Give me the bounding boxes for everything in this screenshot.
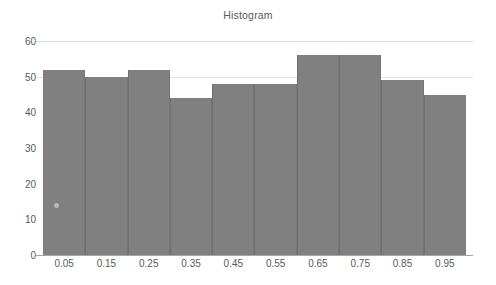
plot-area bbox=[43, 41, 466, 255]
x-tick-label: 0.85 bbox=[381, 258, 423, 278]
bar bbox=[85, 77, 127, 255]
x-tick-label: 0.45 bbox=[212, 258, 254, 278]
bar-cell bbox=[254, 41, 296, 255]
x-tick-label: 0.55 bbox=[254, 258, 296, 278]
bar-cell bbox=[212, 41, 254, 255]
bar bbox=[170, 98, 212, 255]
x-tick-label: 0.15 bbox=[85, 258, 127, 278]
y-tick-label: 0 bbox=[2, 250, 36, 261]
bar-cell bbox=[424, 41, 466, 255]
x-tick-label: 0.95 bbox=[424, 258, 466, 278]
bar-cell bbox=[128, 41, 170, 255]
bar-cell bbox=[381, 41, 423, 255]
bar-cell bbox=[170, 41, 212, 255]
y-axis: 0 10 20 30 40 50 60 bbox=[0, 41, 36, 255]
y-tick-label: 30 bbox=[2, 143, 36, 154]
histogram-chart: Histogram 0 10 20 30 40 50 60 0.05 bbox=[0, 0, 496, 285]
y-tick-label: 50 bbox=[2, 71, 36, 82]
bar-cell bbox=[85, 41, 127, 255]
chart-title: Histogram bbox=[0, 9, 496, 21]
x-tick-label: 0.65 bbox=[297, 258, 339, 278]
x-axis-line bbox=[36, 255, 473, 256]
x-tick-label: 0.35 bbox=[170, 258, 212, 278]
bar bbox=[297, 55, 339, 255]
bar bbox=[212, 84, 254, 255]
x-tick-label: 0.25 bbox=[128, 258, 170, 278]
bar-cell bbox=[339, 41, 381, 255]
x-axis: 0.05 0.15 0.25 0.35 0.45 0.55 0.65 0.75 … bbox=[43, 258, 466, 278]
y-tick-label: 40 bbox=[2, 107, 36, 118]
bar bbox=[128, 70, 170, 255]
bar-cell bbox=[297, 41, 339, 255]
bar bbox=[424, 95, 466, 256]
x-tick-label: 0.05 bbox=[43, 258, 85, 278]
bar-series bbox=[43, 41, 466, 255]
x-tick-label: 0.75 bbox=[339, 258, 381, 278]
bar bbox=[43, 70, 85, 255]
y-tick-label: 60 bbox=[2, 36, 36, 47]
bar bbox=[381, 80, 423, 255]
y-tick-label: 10 bbox=[2, 214, 36, 225]
bar bbox=[339, 55, 381, 255]
y-tick-label: 20 bbox=[2, 178, 36, 189]
bar bbox=[254, 84, 296, 255]
bar-cell bbox=[43, 41, 85, 255]
